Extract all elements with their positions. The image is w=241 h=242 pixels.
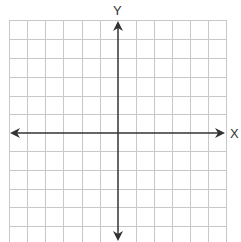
y-axis-label: Y: [113, 3, 122, 18]
x-axis-label: X: [230, 126, 239, 141]
coordinate-plane: Y X: [0, 0, 241, 242]
